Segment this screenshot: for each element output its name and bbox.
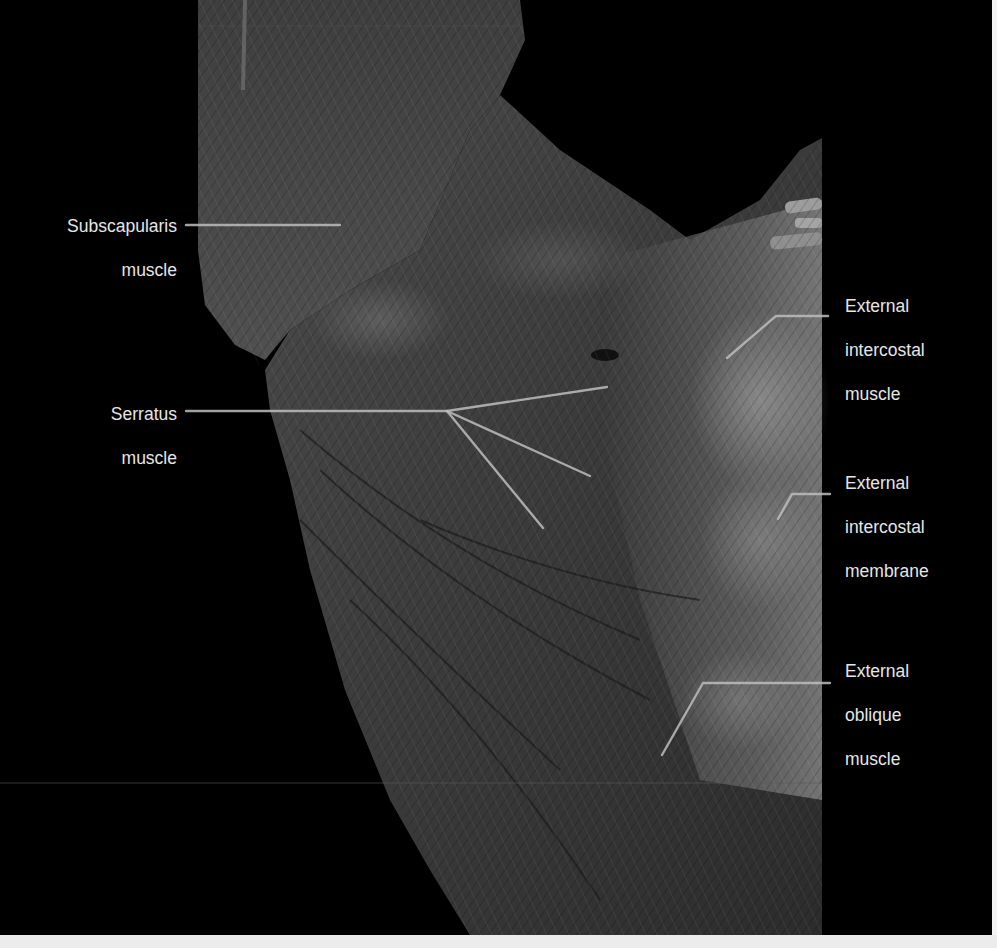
anatomy-figure: Subscapularis muscle Serratus muscle Ext… (0, 0, 992, 935)
label-line: muscle (40, 259, 177, 281)
label-line: membrane (845, 560, 985, 582)
label-line: intercostal (845, 339, 985, 361)
label-line: muscle (60, 447, 177, 469)
page-margin-bottom (0, 935, 997, 948)
label-subscapularis-muscle: Subscapularis muscle (40, 193, 177, 303)
label-line: Serratus (60, 403, 177, 425)
label-line: muscle (845, 383, 985, 405)
label-line: Subscapularis (40, 215, 177, 237)
label-line: muscle (845, 748, 985, 770)
label-external-oblique-muscle: External oblique muscle (845, 638, 985, 792)
label-line: External (845, 295, 985, 317)
label-line: oblique (845, 704, 985, 726)
page-margin-right (992, 0, 997, 935)
label-external-intercostal-muscle: External intercostal muscle (845, 273, 985, 427)
label-line: External (845, 472, 985, 494)
label-external-intercostal-membrane: External intercostal membrane (845, 450, 985, 604)
label-serratus-muscle: Serratus muscle (60, 381, 177, 491)
label-line: intercostal (845, 516, 985, 538)
label-line: External (845, 660, 985, 682)
